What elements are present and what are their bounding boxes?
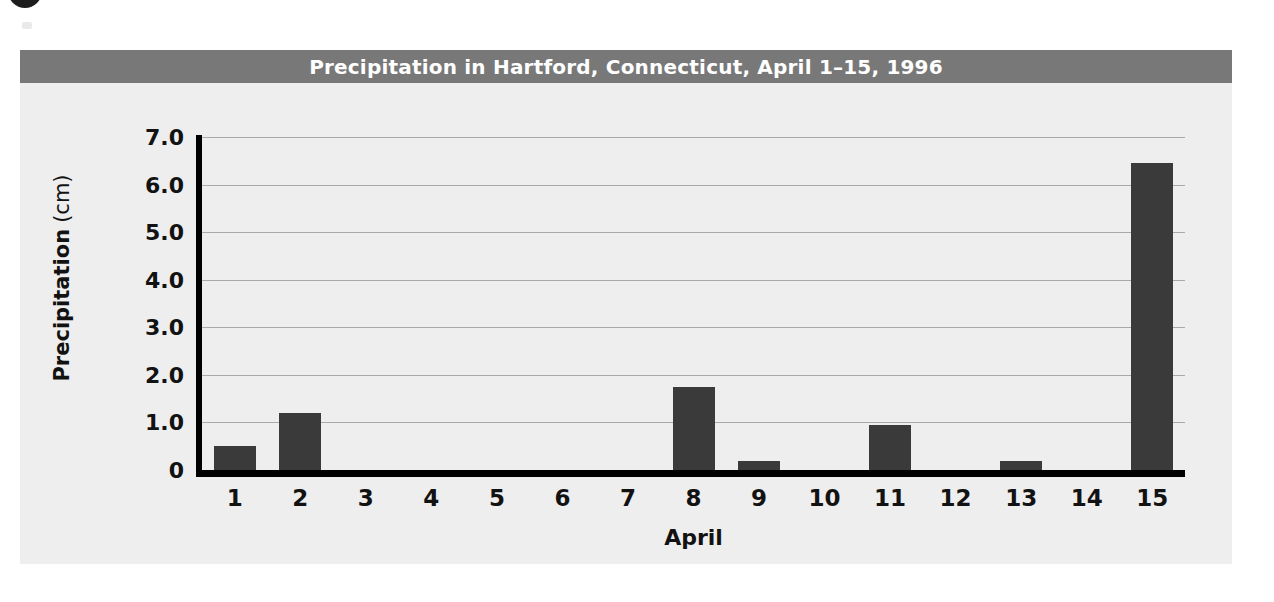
x-tick-label: 12: [940, 485, 972, 511]
x-tick-label: 8: [685, 485, 701, 511]
x-tick-label: 4: [423, 485, 439, 511]
y-tick-label: 2.0: [145, 362, 184, 387]
x-tick-label: 15: [1136, 485, 1168, 511]
bar: [673, 387, 715, 470]
figure-panel: Precipitation in Hartford, Connecticut, …: [20, 50, 1232, 564]
corner-smudge-mark: [22, 22, 32, 29]
y-tick-label: 3.0: [145, 315, 184, 340]
y-axis-title: Precipitation (cm): [42, 148, 82, 408]
x-tick-label: 7: [620, 485, 636, 511]
bar: [214, 446, 256, 470]
y-tick-label: 7.0: [145, 125, 184, 150]
gridline: [202, 280, 1185, 281]
x-tick-label: 6: [554, 485, 570, 511]
y-axis-title-unit: (cm): [50, 174, 74, 222]
bar: [869, 425, 911, 470]
chart-title: Precipitation in Hartford, Connecticut, …: [309, 55, 943, 79]
x-tick-label: 14: [1071, 485, 1103, 511]
gridline: [202, 137, 1185, 138]
chart-title-bar: Precipitation in Hartford, Connecticut, …: [20, 50, 1232, 83]
x-tick-label: 5: [489, 485, 505, 511]
corner-bullet-icon: [8, 0, 42, 8]
gridline: [202, 185, 1185, 186]
x-tick-label: 3: [358, 485, 374, 511]
bar: [279, 413, 321, 470]
y-tick-label: 1.0: [145, 410, 184, 435]
y-tick-label: 0: [169, 458, 184, 483]
y-tick-label: 5.0: [145, 220, 184, 245]
gridline: [202, 232, 1185, 233]
bar: [1000, 461, 1042, 471]
y-tick-label: 6.0: [145, 172, 184, 197]
plot-area: 01.02.03.04.05.06.07.0 12345678910111213…: [202, 137, 1185, 470]
y-axis-title-text: Precipitation: [50, 229, 74, 382]
y-tick-label: 4.0: [145, 267, 184, 292]
x-tick-label: 9: [751, 485, 767, 511]
x-axis-title: April: [202, 525, 1185, 550]
x-axis-line: [196, 470, 1185, 477]
bar: [1131, 163, 1173, 470]
x-tick-label: 2: [292, 485, 308, 511]
gridline: [202, 327, 1185, 328]
x-tick-label: 13: [1005, 485, 1037, 511]
bar: [738, 461, 780, 471]
x-tick-label: 11: [874, 485, 906, 511]
gridline: [202, 375, 1185, 376]
x-tick-label: 1: [227, 485, 243, 511]
x-tick-label: 10: [809, 485, 841, 511]
